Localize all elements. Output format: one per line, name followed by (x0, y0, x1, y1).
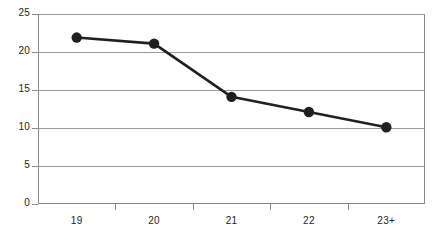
y-tick-mark (32, 52, 38, 53)
y-tick-label: 0 (24, 197, 30, 208)
x-tick-label: 23+ (348, 215, 425, 226)
y-tick-label: 10 (18, 121, 30, 132)
y-tick-label: 15 (18, 83, 30, 94)
x-tick-mark (270, 204, 271, 210)
y-tick-mark (32, 166, 38, 167)
gridline (38, 166, 425, 167)
x-tick-label: 20 (115, 215, 192, 226)
y-tick-label: 5 (24, 159, 30, 170)
y-tick-label: 25 (18, 7, 30, 18)
x-tick-mark (115, 204, 116, 210)
y-tick-mark (32, 90, 38, 91)
x-tick-mark (348, 204, 349, 210)
gridline (38, 52, 425, 53)
x-tick-mark (193, 204, 194, 210)
line-chart: 0510152025 1920212223+ (0, 0, 444, 249)
gridline (38, 90, 425, 91)
y-tick-mark (32, 14, 38, 15)
x-tick-label: 22 (270, 215, 347, 226)
plot-area (38, 14, 425, 204)
y-tick-mark (32, 204, 38, 205)
x-tick-label: 21 (193, 215, 270, 226)
y-tick-label: 20 (18, 45, 30, 56)
gridline (38, 128, 425, 129)
y-tick-mark (32, 128, 38, 129)
x-tick-label: 19 (38, 215, 115, 226)
